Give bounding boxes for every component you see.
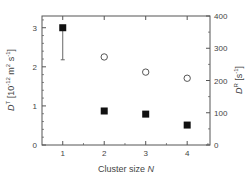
x-tick-label: 1	[61, 149, 66, 158]
y-right-tick-label: 0	[214, 141, 219, 150]
square-marker	[101, 107, 108, 114]
y-axis-left-label: DT [10-12 m2 s-1]	[5, 49, 16, 111]
x-axis-label: Cluster size N	[98, 164, 155, 174]
y-left-tick-label: 0	[33, 141, 38, 150]
square-marker	[184, 122, 191, 129]
y-right-tick-label: 200	[214, 77, 228, 86]
y-left-tick-label: 3	[33, 24, 38, 33]
y-axis-right-label: DR [s-1]	[233, 66, 244, 94]
y-right-tick-label: 300	[214, 44, 228, 53]
square-marker	[142, 111, 149, 118]
circle-marker	[184, 75, 190, 81]
y-right-tick-label: 400	[214, 12, 228, 21]
data-series	[59, 24, 190, 128]
square-marker	[59, 24, 66, 31]
tick-labels: 123401230100200300400	[33, 12, 228, 158]
chart-canvas: 123401230100200300400 Cluster size N DT …	[0, 0, 250, 181]
y-left-tick-label: 1	[33, 102, 38, 111]
circle-marker	[101, 54, 107, 60]
x-tick-label: 4	[185, 149, 190, 158]
circle-marker	[143, 69, 149, 75]
y-left-tick-label: 2	[33, 63, 38, 72]
x-tick-label: 2	[102, 149, 107, 158]
y-right-tick-label: 100	[214, 109, 228, 118]
x-tick-label: 3	[143, 149, 148, 158]
